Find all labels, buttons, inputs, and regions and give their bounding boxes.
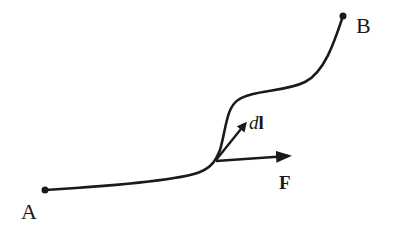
point-a-dot xyxy=(42,187,49,194)
point-a-label: A xyxy=(21,201,37,223)
path-curve xyxy=(45,16,343,190)
dl-vector-label: dl xyxy=(249,113,264,132)
diagram-svg xyxy=(0,0,393,235)
diagram-canvas: A B dl F xyxy=(0,0,393,235)
point-b-dot xyxy=(340,13,347,20)
point-b-label: B xyxy=(356,15,371,37)
dl-label-d: d xyxy=(249,112,259,133)
dl-vector-arrow xyxy=(216,124,245,160)
dl-label-l: l xyxy=(259,112,264,133)
f-vector-arrow xyxy=(216,156,288,161)
f-vector-label: F xyxy=(279,173,291,192)
